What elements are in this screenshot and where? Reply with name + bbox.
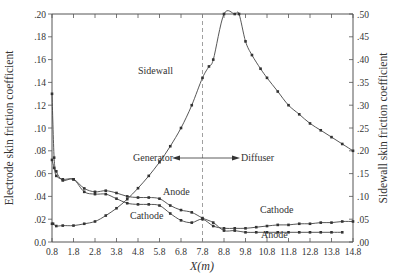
generator-diffuser-arrow: [172, 156, 240, 161]
data-marker: [169, 204, 172, 207]
data-marker: [244, 40, 247, 43]
y-tick-label-left: .10: [34, 124, 46, 134]
diffuser-annotation: Diffuser: [241, 152, 275, 163]
data-marker: [53, 156, 56, 159]
data-marker: [223, 13, 226, 16]
data-marker: [61, 179, 64, 182]
y-tick-label-left: .14: [34, 78, 46, 88]
x-tick-label: 7.8: [197, 247, 209, 257]
data-marker: [147, 203, 150, 206]
data-marker: [55, 170, 58, 173]
x-tick-label: 4.8: [132, 247, 144, 257]
data-marker: [266, 225, 269, 228]
data-marker: [72, 178, 75, 181]
data-marker: [233, 227, 236, 230]
y-tick-label-right: .05: [357, 215, 369, 225]
data-marker: [341, 231, 344, 234]
x-tick-label: 3.8: [111, 247, 123, 257]
data-marker: [94, 193, 97, 196]
data-marker: [126, 195, 129, 198]
data-marker: [276, 90, 279, 93]
data-marker: [126, 202, 129, 205]
cathode-lower-annotation: Cathode: [130, 210, 164, 221]
data-marker: [330, 231, 333, 234]
data-marker: [287, 224, 290, 227]
data-marker: [83, 187, 86, 190]
data-marker: [94, 191, 97, 194]
data-marker: [319, 221, 322, 224]
x-tick-label: 10.8: [259, 247, 276, 257]
y-tick-label-left: 0.0: [34, 238, 46, 248]
x-tick-label: 0.8: [46, 247, 58, 257]
data-marker: [169, 212, 172, 215]
data-marker: [298, 113, 301, 116]
y-tick-label-right: .45: [357, 32, 369, 42]
generator-annotation: Generator: [133, 152, 174, 163]
data-marker: [255, 226, 258, 229]
x-tick-label: 2.8: [89, 247, 101, 257]
y-axis-label-left: Electrode skin friction coefficient: [3, 50, 15, 205]
data-marker: [104, 214, 107, 217]
y-tick-label-right: .50: [357, 10, 369, 20]
sidewall-annotation: Sidewall: [138, 65, 173, 76]
data-marker: [51, 159, 54, 162]
cathode-upper-annotation: Cathode: [260, 204, 294, 215]
data-marker: [115, 192, 118, 195]
anode-lower-annotation: Anode: [261, 229, 288, 240]
data-marker: [147, 175, 150, 178]
y-tick-label-left: .04: [34, 192, 46, 202]
x-tick-label: 6.8: [175, 247, 187, 257]
data-marker: [298, 222, 301, 225]
y-tick-label-right: .10: [357, 192, 369, 202]
data-marker: [51, 93, 54, 96]
data-marker: [276, 224, 279, 227]
y-tick-label-right: .40: [357, 55, 369, 65]
data-marker: [251, 54, 254, 57]
data-marker: [61, 224, 64, 227]
data-marker: [158, 204, 161, 207]
data-marker: [212, 58, 215, 61]
x-tick-label: 5.8: [154, 247, 166, 257]
data-marker: [55, 225, 58, 228]
data-marker: [169, 145, 172, 148]
data-marker: [115, 197, 118, 200]
data-marker: [126, 198, 129, 201]
x-tick-label: 1.8: [68, 247, 80, 257]
data-marker: [259, 67, 262, 70]
data-marker: [223, 227, 226, 230]
skin-friction-chart: 0.81.82.83.84.85.86.87.88.89.810.811.812…: [0, 0, 395, 280]
data-marker: [137, 203, 140, 206]
data-marker: [266, 77, 269, 80]
x-tick-label: 9.8: [240, 247, 252, 257]
data-marker: [233, 13, 236, 16]
x-axis-label: X(m): [189, 259, 214, 273]
data-marker: [319, 231, 322, 234]
data-marker: [255, 231, 258, 234]
data-marker: [94, 220, 97, 223]
data-marker: [238, 13, 241, 16]
data-marker: [180, 209, 183, 212]
y-tick-label-left: .02: [34, 215, 46, 225]
data-marker: [201, 218, 204, 221]
data-marker: [104, 189, 107, 192]
data-marker: [115, 207, 118, 210]
y-tick-label-right: .30: [357, 101, 369, 111]
y-tick-label-left: .12: [34, 101, 46, 111]
data-marker: [190, 104, 193, 107]
data-marker: [352, 220, 355, 223]
y-tick-label-right: .25: [357, 124, 369, 134]
data-marker: [233, 229, 236, 232]
data-marker: [341, 143, 344, 146]
data-marker: [244, 227, 247, 230]
data-marker: [309, 122, 312, 125]
data-marker: [104, 193, 107, 196]
y-tick-label-left: .18: [34, 32, 46, 42]
y-tick-label-right: .00: [357, 238, 369, 248]
y-axis-label-right: Sidewall skin friction coefficient: [377, 52, 389, 204]
data-marker: [309, 222, 312, 225]
y-tick-label-left: .08: [34, 146, 46, 156]
data-marker: [212, 221, 215, 224]
x-tick-label: 11.8: [280, 247, 297, 257]
x-tick-label: 14.8: [345, 247, 362, 257]
data-marker: [83, 222, 86, 225]
